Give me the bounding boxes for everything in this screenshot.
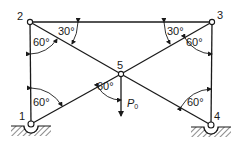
joint-1 [28,121,34,127]
joint-3 [209,19,214,24]
load-subscript: 0 [134,103,138,110]
angle-label-5-60: 60° [97,81,114,92]
node-label-2: 2 [17,11,23,22]
load-label: P0 [127,98,138,110]
node-label-1: 1 [19,111,25,122]
node-label-5: 5 [117,60,123,71]
angle-label-3-60: 60° [186,37,203,48]
angle-label-1-60: 60° [33,97,50,108]
joint-4 [208,122,214,128]
truss-drawing [0,0,244,148]
node-label-3: 3 [217,10,223,21]
angle-label-4-60: 60° [187,97,204,108]
angle-label-3-30: 30° [167,26,184,37]
angle-label-2-30: 30° [58,26,75,37]
member-2-5 [30,22,121,74]
member-1-2 [30,22,31,124]
truss-diagram: 1 2 3 4 5 60° 30° 30° 60° 60° 60° 60° P0 [0,0,244,148]
node-label-4: 4 [214,111,220,122]
member-3-4 [211,22,212,125]
angle-label-2-60: 60° [33,37,50,48]
joint-5 [118,71,123,76]
joint-2 [27,19,32,24]
